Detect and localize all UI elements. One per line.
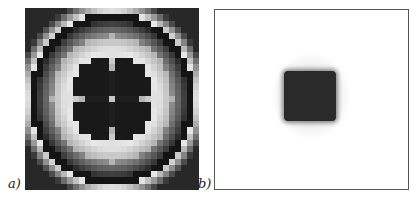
panel-a-label: a) — [8, 176, 21, 191]
panel-b-frame — [214, 9, 409, 190]
panel-a-grayscale-map — [25, 8, 199, 190]
panel-b-label: b) — [198, 176, 211, 191]
dark-square-blob — [284, 71, 336, 121]
